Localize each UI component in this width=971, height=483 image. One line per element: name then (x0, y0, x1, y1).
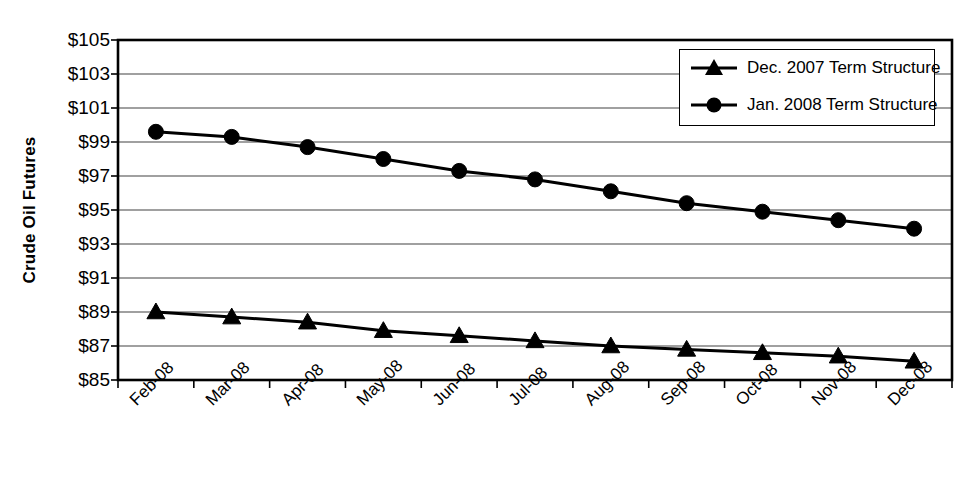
triangle-marker (689, 57, 739, 79)
legend-label: Dec. 2007 Term Structure (747, 58, 940, 78)
legend-label: Jan. 2008 Term Structure (747, 95, 938, 115)
legend-item: Dec. 2007 Term Structure (689, 57, 940, 79)
crude-oil-futures-chart: Crude Oil Futures $105$103$101$99$97$95$… (0, 0, 971, 483)
circle-marker (689, 94, 739, 116)
legend-item: Jan. 2008 Term Structure (689, 94, 938, 116)
